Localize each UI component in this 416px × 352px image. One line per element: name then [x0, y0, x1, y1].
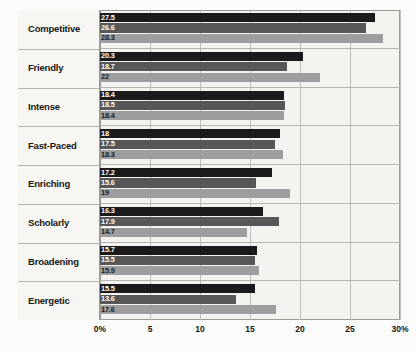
bar-value-label: 19: [101, 188, 109, 198]
bar-series-1: 27.5: [100, 13, 375, 22]
bar-value-label: 18.4: [101, 111, 115, 121]
category-label-column: CompetitiveFriendlyIntenseFast-PacedEnri…: [18, 10, 100, 320]
bar-value-label: 17.6: [101, 305, 115, 315]
chart-row: 1817.518.3: [100, 126, 400, 165]
bar-group: 18.418.518.4: [100, 91, 400, 123]
chart-row: 18.418.518.4: [100, 88, 400, 127]
row-separator: [18, 281, 99, 282]
chart-row: 15.715.515.9: [100, 243, 400, 282]
bar-value-label: 18: [101, 129, 109, 139]
bar-value-label: 27.5: [101, 13, 115, 23]
row-separator: [18, 49, 99, 50]
bar-group: 1817.518.3: [100, 129, 400, 161]
bar-series-3: 28.3: [100, 34, 383, 43]
bar-series-2: 17.9: [100, 217, 279, 226]
bar-series-3: 18.4: [100, 111, 284, 120]
x-tick-label: 25: [345, 324, 354, 334]
bar-value-label: 18.4: [101, 90, 115, 100]
bar-series-3: 18.3: [100, 150, 283, 159]
bar-series-1: 16.3: [100, 207, 263, 216]
bar-series-2: 13.6: [100, 295, 236, 304]
bar-value-label: 15.5: [101, 284, 115, 294]
bar-group: 17.215.619: [100, 168, 400, 200]
row-separator: [18, 204, 99, 205]
plot-area: 27.526.628.320.318.72218.418.518.41817.5…: [100, 10, 400, 320]
bar-value-label: 18.3: [101, 150, 115, 160]
bar-series-3: 14.7: [100, 228, 247, 237]
bar-series-1: 15.5: [100, 284, 255, 293]
category-rows: 27.526.628.320.318.72218.418.518.41817.5…: [100, 10, 400, 320]
bar-series-2: 18.7: [100, 62, 287, 71]
x-tick-label: 15: [245, 324, 254, 334]
bar-group: 20.318.722: [100, 52, 400, 84]
bar-value-label: 13.6: [101, 294, 115, 304]
x-axis: 0%51015202530%: [100, 322, 400, 344]
bar-value-label: 14.7: [101, 227, 115, 237]
bar-value-label: 16.3: [101, 206, 115, 216]
bar-series-3: 15.9: [100, 266, 259, 275]
bar-group: 15.513.617.6: [100, 284, 400, 316]
bar-value-label: 20.3: [101, 51, 115, 61]
bar-value-label: 17.5: [101, 139, 115, 149]
bar-group: 15.715.515.9: [100, 246, 400, 278]
x-tick-label: 0%: [94, 324, 106, 334]
chart-row: 27.526.628.3: [100, 10, 400, 49]
gridline-30: [400, 10, 401, 320]
bar-series-1: 18.4: [100, 91, 284, 100]
bar-series-2: 26.6: [100, 23, 366, 32]
bar-value-label: 15.5: [101, 255, 115, 265]
chart-row: 20.318.722: [100, 49, 400, 88]
bar-series-1: 20.3: [100, 52, 303, 61]
bar-series-1: 17.2: [100, 168, 272, 177]
bar-value-label: 15.7: [101, 245, 115, 255]
category-label: Scholarly: [28, 217, 100, 228]
category-label: Broadening: [28, 256, 100, 267]
bar-group: 27.526.628.3: [100, 13, 400, 45]
x-tick-label: 20: [295, 324, 304, 334]
bar-value-label: 17.9: [101, 217, 115, 227]
row-separator: [18, 88, 99, 89]
bar-series-2: 18.5: [100, 101, 285, 110]
category-label: Competitive: [28, 23, 100, 34]
bar-series-1: 15.7: [100, 246, 257, 255]
category-label: Enriching: [28, 178, 100, 189]
chart-row: 17.215.619: [100, 165, 400, 204]
bar-series-2: 17.5: [100, 140, 275, 149]
x-tick-label: 30%: [391, 324, 408, 334]
bar-chart: 27.526.628.320.318.72218.418.518.41817.5…: [0, 0, 416, 352]
bar-value-label: 15.9: [101, 266, 115, 276]
bar-series-3: 19: [100, 189, 290, 198]
bar-value-label: 18.7: [101, 62, 115, 72]
bar-value-label: 18.5: [101, 100, 115, 110]
bar-value-label: 28.3: [101, 33, 115, 43]
category-label: Energetic: [28, 295, 100, 306]
bar-series-2: 15.5: [100, 256, 255, 265]
bar-series-1: 18: [100, 129, 280, 138]
bar-value-label: 26.6: [101, 23, 115, 33]
row-separator: [18, 165, 99, 166]
chart-row: 16.317.914.7: [100, 204, 400, 243]
category-label: Friendly: [28, 62, 100, 73]
bar-value-label: 17.2: [101, 168, 115, 178]
bar-value-label: 22: [101, 72, 109, 82]
chart-row: 15.513.617.6: [100, 281, 400, 320]
bar-series-3: 22: [100, 73, 320, 82]
x-tick-label: 10: [195, 324, 204, 334]
category-label: Intense: [28, 101, 100, 112]
bar-value-label: 15.6: [101, 178, 115, 188]
row-separator: [18, 126, 99, 127]
bar-group: 16.317.914.7: [100, 207, 400, 239]
bar-series-3: 17.6: [100, 305, 276, 314]
category-label: Fast-Paced: [28, 140, 100, 151]
x-tick-label: 5: [148, 324, 153, 334]
bar-series-2: 15.6: [100, 178, 256, 187]
row-separator: [18, 243, 99, 244]
